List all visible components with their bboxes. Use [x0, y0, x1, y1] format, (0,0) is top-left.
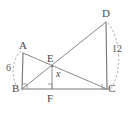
measure-label-ef: x: [56, 69, 60, 79]
figure-canvas: [0, 0, 134, 114]
measure-arc-dc: [108, 23, 119, 90]
segment-ac: [23, 53, 107, 89]
measure-label-dc: 12: [112, 44, 122, 54]
vertex-label-c: C: [108, 83, 115, 94]
geometry-figure: A B C D E F 6 12 x: [0, 0, 134, 114]
segment-bd: [22, 22, 106, 89]
segment-dc: [106, 22, 107, 89]
vertex-label-b: B: [12, 83, 19, 94]
vertex-label-a: A: [19, 40, 27, 51]
vertex-label-e: E: [47, 53, 54, 64]
right-angle-mark-f: [48, 84, 52, 89]
vertex-label-f: F: [47, 93, 53, 104]
vertex-dot-e: [51, 65, 53, 67]
measure-label-ab: 6: [6, 63, 11, 73]
vertex-label-d: D: [102, 8, 110, 19]
